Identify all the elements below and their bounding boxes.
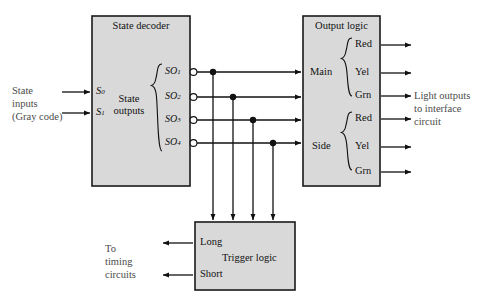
state-output-pin-so1: SO1: [165, 65, 181, 76]
trigger-output-label-long: Long: [200, 236, 222, 247]
state-input-pin-s0: S0: [96, 85, 105, 96]
junction-dot-so2: [230, 94, 236, 100]
state-inputs-annotation: State inputs (Gray code): [12, 84, 62, 123]
timing-circuits-annotation: To timing circuits: [105, 242, 136, 281]
state-output-pin-so1-sub: 1: [177, 68, 181, 76]
junction-dot-so4: [270, 140, 276, 146]
state-output-pin-so2: SO2: [165, 90, 181, 101]
trigger-logic-title: Trigger logic: [222, 252, 277, 263]
junction-dot-so3: [250, 117, 256, 123]
state-output-pin-so1-label: SO: [165, 65, 177, 76]
state-input-pin-s1-sub: 1: [101, 109, 105, 117]
lamp-label-main-red: Red: [355, 38, 372, 49]
light-outputs-annotation-line2: to interface: [414, 102, 470, 115]
lamp-label-main-grn: Grn: [355, 89, 371, 100]
lamp-label-main-yel: Yel: [355, 66, 369, 77]
state-output-pin-so4-sub: 4: [177, 139, 181, 147]
state-output-pin-so4-label: SO: [165, 136, 177, 147]
state-output-pin-so3: SO3: [165, 113, 181, 124]
diagram-canvas: State decoder State outputs S0 S1 SO1 SO…: [0, 0, 482, 308]
junction-dot-so1: [210, 69, 216, 75]
light-outputs-annotation-line3: circuit: [414, 115, 470, 128]
state-inputs-annotation-line3: (Gray code): [12, 110, 62, 123]
state-inputs-annotation-line2: inputs: [12, 97, 62, 110]
lamp-label-side-grn: Grn: [355, 165, 371, 176]
output-group-label-main: Main: [310, 66, 332, 77]
state-output-pin-so2-label: SO: [165, 90, 177, 101]
state-output-pin-so4: SO4: [165, 136, 181, 147]
timing-circuits-annotation-line3: circuits: [105, 268, 136, 281]
light-outputs-annotation-line1: Light outputs: [414, 89, 470, 102]
state-decoder-inner-label: State outputs: [106, 93, 152, 117]
output-bubble-so2: [190, 94, 197, 101]
state-output-pin-so3-label: SO: [165, 113, 177, 124]
state-output-pin-so3-sub: 3: [177, 116, 181, 124]
lamp-label-side-yel: Yel: [355, 140, 369, 151]
output-logic-title: Output logic: [303, 20, 380, 31]
state-input-pin-s0-sub: 0: [101, 88, 105, 96]
timing-circuits-annotation-line1: To: [105, 242, 136, 255]
state-decoder-inner-label-line2: outputs: [106, 105, 152, 117]
state-inputs-annotation-line1: State: [12, 84, 62, 97]
state-decoder-inner-label-line1: State: [106, 93, 152, 105]
output-group-label-side: Side: [312, 140, 331, 151]
output-bubble-so1: [190, 69, 197, 76]
output-bubble-so3: [190, 117, 197, 124]
state-input-pin-s1: S1: [96, 106, 105, 117]
light-outputs-annotation: Light outputs to interface circuit: [414, 89, 470, 128]
output-bubble-so4: [190, 140, 197, 147]
timing-circuits-annotation-line2: timing: [105, 255, 136, 268]
state-output-pin-so2-sub: 2: [177, 93, 181, 101]
lamp-label-side-red: Red: [355, 112, 372, 123]
trigger-output-label-short: Short: [200, 268, 223, 279]
state-decoder-title: State decoder: [92, 20, 190, 31]
